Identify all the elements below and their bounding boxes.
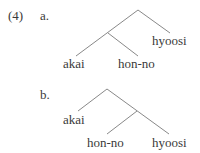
tree-a-leaf-hyoosi: hyoosi <box>152 34 187 47</box>
tree-b-label: b. <box>40 88 50 101</box>
tree-b-leaf-hyoosi: hyoosi <box>152 136 187 149</box>
tree-b-leaf-hon-no: hon-no <box>87 136 124 149</box>
tree-b-leaf-akai: akai <box>63 113 85 126</box>
tree-diagrams <box>0 0 200 153</box>
tree-b-branches <box>78 89 169 134</box>
tree-a-leaf-hon-no: hon-no <box>118 57 155 70</box>
tree-a-leaf-akai: akai <box>63 57 85 70</box>
